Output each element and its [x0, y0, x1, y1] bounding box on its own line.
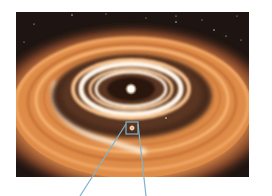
callout-overlay: [0, 0, 272, 196]
callout-line-left: [80, 124, 126, 196]
callout-line-right: [138, 124, 146, 196]
callout-box: [126, 122, 138, 134]
